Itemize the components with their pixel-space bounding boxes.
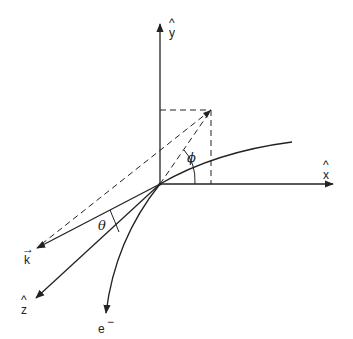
k-vector: k →	[22, 184, 160, 267]
electron-path: e −	[98, 184, 160, 336]
y-hat: ^	[169, 16, 175, 30]
projection-arrowhead	[203, 110, 211, 118]
z-hat: ^	[21, 293, 27, 307]
z-vector: z ^	[21, 184, 160, 317]
electron-label: e	[98, 322, 105, 336]
k-arrow-accent: →	[22, 242, 34, 256]
y-axis: y ^	[160, 16, 175, 184]
origin-point	[159, 183, 162, 186]
projection-lines	[38, 110, 211, 247]
theta-label: θ	[98, 218, 106, 233]
trajectory-curve	[160, 142, 292, 184]
vector-diagram: y ^ x ^ ϕ k → z ^ θ e −	[0, 0, 353, 339]
x-hat: ^	[323, 158, 329, 172]
phi-label: ϕ	[187, 150, 196, 165]
electron-charge: −	[107, 315, 114, 329]
